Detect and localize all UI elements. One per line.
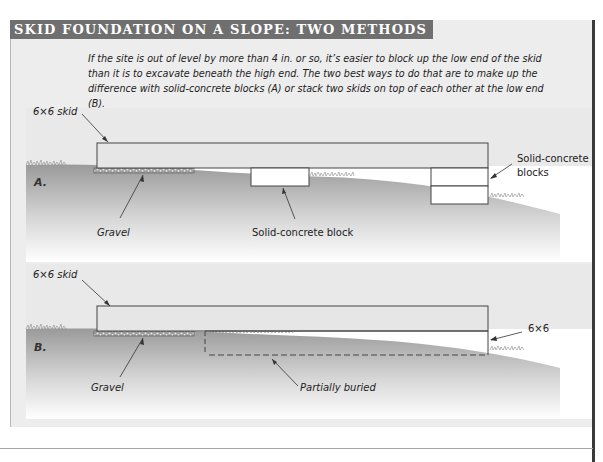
diagram-b: 6×6 skid B. Gravel Partially buried 6×6 xyxy=(0,0,603,462)
diagram-b-tag: B. xyxy=(34,341,47,354)
label-partially-buried: Partially buried xyxy=(300,382,376,393)
label-gravel-b: Gravel xyxy=(91,382,124,393)
label-skid-b: 6×6 skid xyxy=(33,269,77,280)
label-lower-skid: 6×6 xyxy=(528,323,549,334)
